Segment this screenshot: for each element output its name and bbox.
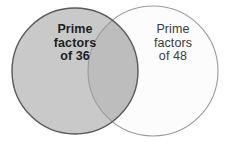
set-left-label-line1: Prime [31,23,119,37]
set-left-label-line2: factors [31,37,119,51]
set-right-label: Prime factors of 48 [129,23,217,64]
venn-diagram-figure: Prime factors of 36 Prime factors of 48 [0,0,230,147]
set-left-label-line3: of 36 [31,50,119,64]
set-right-label-line1: Prime [129,23,217,37]
set-right-label-line3: of 48 [129,50,217,64]
set-right-label-line2: factors [129,37,217,51]
set-left-label: Prime factors of 36 [31,23,119,64]
